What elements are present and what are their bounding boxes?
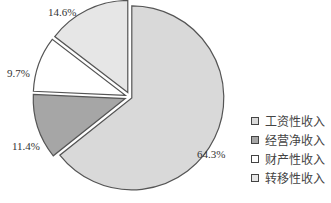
legend: 工资性收入 经营净收入 财产性收入 转移性收入 (251, 111, 325, 187)
label-transfer-income: 14.6% (48, 6, 76, 18)
legend-label: 转移性收入 (265, 169, 325, 186)
legend-swatch-icon (251, 155, 259, 163)
label-property-income: 9.7% (7, 67, 30, 79)
legend-item-property: 财产性收入 (251, 149, 325, 168)
legend-swatch-icon (251, 174, 259, 182)
legend-swatch-icon (251, 117, 259, 125)
legend-item-wage: 工资性收入 (251, 111, 325, 130)
legend-label: 经营净收入 (265, 131, 325, 148)
legend-label: 工资性收入 (265, 112, 325, 129)
label-wage-income: 64.3% (197, 148, 225, 160)
label-business-income: 11.4% (12, 140, 40, 152)
legend-item-business: 经营净收入 (251, 130, 325, 149)
legend-swatch-icon (251, 136, 259, 144)
legend-label: 财产性收入 (265, 150, 325, 167)
legend-item-transfer: 转移性收入 (251, 168, 325, 187)
